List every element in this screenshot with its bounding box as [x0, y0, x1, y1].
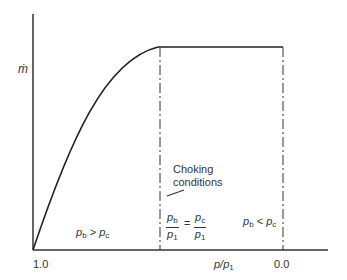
y-axis-label: ṁ	[18, 62, 28, 76]
region-left-label: pb > pc	[76, 226, 109, 240]
choke-eq-lhs: pb p1	[166, 211, 179, 244]
choke-eq-equals: =	[184, 217, 190, 229]
x-tick-left: 1.0	[33, 258, 48, 270]
x-axis-label: p/p1	[214, 258, 234, 272]
choke-eq-rhs: pc p1	[194, 211, 206, 244]
choking-annotation: Choking conditions	[173, 163, 223, 189]
annotation-leader	[167, 190, 184, 196]
region-right-label: pb < pc	[243, 215, 276, 229]
mass-flow-curve	[33, 47, 158, 250]
x-tick-right: 0.0	[274, 258, 289, 270]
